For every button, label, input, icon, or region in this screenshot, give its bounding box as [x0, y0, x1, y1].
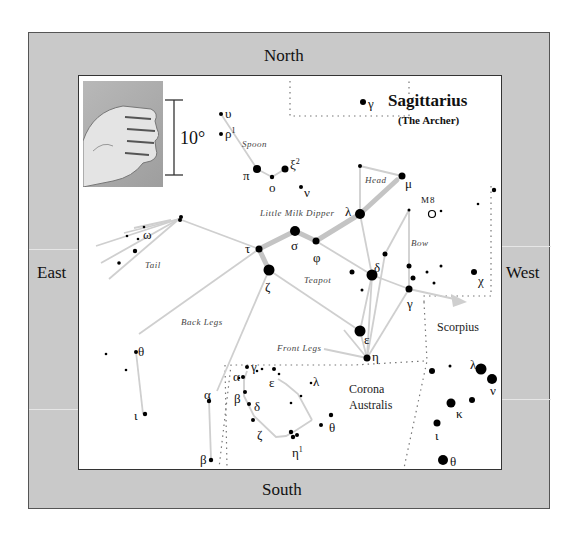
star-sigma: σ: [291, 239, 298, 252]
asterism-tail: Tail: [145, 261, 161, 270]
star-rho1: ρ1: [225, 127, 236, 140]
cra-beta: β: [234, 392, 241, 405]
star-nu: ν: [304, 186, 310, 199]
star-eta: η: [372, 350, 379, 363]
sco-kappa: κ: [456, 407, 463, 420]
asterism-bow: Bow: [411, 239, 429, 248]
star-iota: ι: [134, 409, 138, 422]
region-scorpius: Scorpius: [437, 321, 479, 333]
star-upsilon: υ: [225, 107, 231, 120]
cra-epsilon: ε: [269, 376, 274, 389]
cra-zeta: ζ: [257, 428, 262, 441]
asterism-spoon: Spoon: [242, 140, 267, 149]
constellation-subtitle: (The Archer): [398, 115, 459, 126]
asterism-teapot: Teapot: [304, 276, 331, 285]
asterism-head: Head: [365, 176, 387, 185]
cra-eta1: η1: [292, 446, 303, 459]
star-lambda: λ: [345, 205, 351, 218]
constellation-lines: [79, 76, 502, 470]
direction-south: South: [262, 480, 302, 500]
sco-theta: θ: [450, 455, 456, 468]
asterism-back-legs: Back Legs: [181, 318, 223, 327]
milk-dipper-figure: [259, 180, 397, 270]
star-alpha: α: [204, 388, 211, 401]
direction-north: North: [264, 46, 304, 66]
star-chart: Sagittarius (The Archer) 10° Spoon Head …: [78, 75, 502, 470]
m8-label: M8: [421, 196, 436, 205]
star-gamma: γ: [407, 297, 413, 310]
direction-east: East: [37, 263, 66, 283]
sco-iota: ι: [435, 429, 439, 442]
frame-seam: [502, 399, 551, 400]
star-phi: φ: [313, 251, 321, 264]
star-omicron: ο: [269, 181, 276, 194]
star-zeta: ζ: [265, 280, 270, 293]
stars: [105, 99, 497, 465]
star-omega: ω: [143, 228, 152, 241]
star-gamma-north: γ: [368, 97, 374, 110]
region-australis: Australis: [349, 399, 392, 411]
frame-seam: [29, 249, 79, 250]
cra-gamma: γ: [251, 360, 257, 373]
star-tau: τ: [245, 242, 250, 255]
sco-nu: ν: [490, 384, 496, 397]
sco-lambda: λ: [470, 358, 476, 371]
star-delta: δ: [374, 261, 380, 274]
constellation-title: Sagittarius: [388, 92, 467, 109]
star-epsilon: ε: [364, 333, 369, 346]
asterism-front-legs: Front Legs: [277, 344, 321, 353]
arrow-to-antares: [409, 289, 467, 307]
star-xi2: ξ2: [290, 158, 300, 171]
star-beta: β: [200, 453, 207, 466]
cra-theta: θ: [329, 421, 335, 434]
direction-west: West: [506, 263, 540, 283]
cra-alpha: α: [233, 370, 240, 383]
cra-lambda: λ: [313, 375, 319, 388]
frame-seam: [502, 246, 551, 247]
asterism-little-milk-dipper: Little Milk Dipper: [260, 209, 335, 218]
frame-seam: [29, 409, 79, 410]
star-theta: θ: [138, 345, 144, 358]
star-chi: χ: [478, 274, 484, 287]
star-pi: π: [243, 169, 250, 182]
cra-delta: δ: [254, 400, 260, 413]
region-corona: Corona: [349, 383, 384, 395]
star-mu: μ: [405, 177, 412, 190]
scale-label: 10°: [180, 129, 205, 147]
